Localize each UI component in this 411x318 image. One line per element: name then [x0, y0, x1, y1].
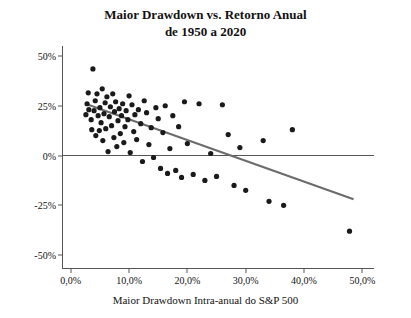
scatter-point: [89, 117, 94, 122]
scatter-point: [114, 144, 119, 149]
scatter-point: [156, 116, 161, 121]
y-tick-mark: [58, 55, 62, 56]
scatter-point: [84, 101, 89, 106]
scatter-point: [122, 124, 127, 129]
chart-title-line1: Maior Drawdown vs. Retorno Anual: [104, 7, 306, 22]
scatter-point: [96, 113, 101, 118]
scatter-point: [170, 113, 175, 118]
x-tick-label: 0,0%: [60, 275, 81, 286]
scatter-point: [107, 114, 112, 119]
scatter-point: [93, 133, 98, 138]
scatter-point: [125, 117, 130, 122]
chart-title: Maior Drawdown vs. Retorno Anual de 1950…: [0, 6, 411, 40]
scatter-point: [261, 138, 266, 143]
scatter-point: [149, 125, 154, 130]
scatter-point: [86, 107, 91, 112]
scatter-point: [176, 124, 181, 129]
scatter-point: [115, 118, 120, 123]
y-tick-label: -50%: [34, 250, 56, 261]
scatter-point: [191, 172, 196, 177]
scatter-point: [117, 106, 122, 111]
y-tick-label: 0%: [43, 150, 56, 161]
scatter-point: [94, 91, 99, 96]
scatter-point: [144, 110, 149, 115]
scatter-point: [93, 98, 98, 103]
scatter-point: [134, 137, 139, 142]
scatter-point: [119, 113, 124, 118]
scatter-point: [138, 121, 143, 126]
x-tick-mark: [362, 269, 363, 273]
scatter-point: [118, 131, 123, 136]
x-tick-label: 10,0%: [116, 275, 142, 286]
scatter-point: [202, 178, 207, 183]
y-tick-mark: [58, 155, 62, 156]
scatter-point: [165, 171, 170, 176]
scatter-point: [132, 112, 137, 117]
scatter-point: [103, 126, 108, 131]
scatter-point: [112, 109, 117, 114]
scatter-point: [281, 203, 286, 208]
scatter-point: [109, 123, 114, 128]
scatter-point: [160, 130, 165, 135]
scatter-point: [167, 146, 172, 151]
x-tick-mark: [245, 269, 246, 273]
x-tick-mark: [304, 269, 305, 273]
scatter-point: [136, 107, 141, 112]
scatter-point: [214, 174, 219, 179]
scatter-point: [113, 99, 118, 104]
scatter-point: [105, 149, 110, 154]
chart-container: Maior Drawdown vs. Retorno Anual de 1950…: [0, 0, 411, 318]
scatter-point: [243, 188, 248, 193]
scatter-point: [129, 102, 134, 107]
scatter-point: [153, 105, 158, 110]
scatter-point: [173, 168, 178, 173]
scatter-point: [208, 151, 213, 156]
scatter-point: [111, 135, 116, 140]
scatter-point: [131, 129, 136, 134]
x-tick-label: 20,0%: [174, 275, 200, 286]
scatter-point: [121, 140, 126, 145]
x-tick-label: 30,0%: [233, 275, 259, 286]
scatter-point: [146, 142, 151, 147]
scatter-point: [182, 99, 187, 104]
scatter-point: [126, 93, 131, 98]
x-tick-mark: [70, 269, 71, 273]
scatter-point: [151, 155, 156, 160]
scatter-point: [196, 101, 201, 106]
scatter-point: [98, 120, 103, 125]
scatter-point: [266, 199, 271, 204]
x-axis-label: Maior Drawdown Intra-anual do S&P 500: [0, 294, 411, 306]
plot-area: Retorno Anual de Ações -50%-25%0%25%50%0…: [62, 46, 374, 269]
y-tick-mark: [58, 105, 62, 106]
y-tick-label: 25%: [38, 100, 56, 111]
scatter-plot-svg: [62, 46, 374, 269]
scatter-point: [90, 66, 95, 71]
y-tick-mark: [58, 255, 62, 256]
chart-subtitle: de 1950 a 2020: [0, 23, 411, 40]
scatter-point: [108, 104, 113, 109]
x-tick-mark: [187, 269, 188, 273]
scatter-point: [124, 108, 129, 113]
x-tick-mark: [129, 269, 130, 273]
scatter-point: [185, 141, 190, 146]
scatter-point: [89, 127, 94, 132]
scatter-point: [103, 100, 108, 105]
scatter-point: [100, 86, 105, 91]
scatter-point: [83, 112, 88, 117]
scatter-point: [226, 132, 231, 137]
scatter-point: [140, 159, 145, 164]
scatter-point: [231, 183, 236, 188]
scatter-point: [91, 108, 96, 113]
y-tick-mark: [58, 205, 62, 206]
x-tick-label: 40,0%: [291, 275, 317, 286]
scatter-point: [110, 91, 115, 96]
x-tick-label: 50,0%: [349, 275, 375, 286]
scatter-point: [158, 166, 163, 171]
scatter-point: [97, 105, 102, 110]
scatter-point: [179, 175, 184, 180]
y-tick-label: 50%: [38, 50, 56, 61]
scatter-point: [142, 98, 147, 103]
scatter-point: [347, 229, 352, 234]
scatter-point: [104, 94, 109, 99]
scatter-point: [290, 127, 295, 132]
